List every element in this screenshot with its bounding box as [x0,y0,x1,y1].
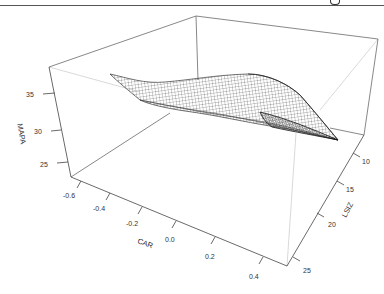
y-tick-15: 15 [346,186,354,193]
x-tick-neg0.6: -0.6 [63,192,75,199]
y-tick-10: 10 [362,158,370,165]
x-tick-0.2: 0.2 [205,253,215,260]
x-axis-line [71,177,287,266]
x-tick-neg0.2: -0.2 [126,220,138,227]
z-tick-35: 35 [26,91,34,98]
z-ticks [43,93,68,163]
z-axis-line [49,67,71,177]
box-back-edges [49,39,378,266]
x-ticks [77,181,263,264]
y-axis-label: LSIZ [340,200,356,219]
x-axis-label: CAR [136,236,155,250]
y-tick-20: 20 [328,221,336,228]
x-tick-0.4: 0.4 [249,273,259,280]
z-axis-label: MAPA [15,123,27,145]
x-tick-0.0: 0.0 [165,236,175,243]
perspective-plot: 35 30 25 MAPA -0.6 -0.4 -0.2 0.0 0.2 0.4… [0,0,384,294]
z-tick-30: 30 [34,128,42,135]
z-tick-25: 25 [40,161,48,168]
x-tick-neg0.4: -0.4 [93,205,105,212]
y-axis-line [287,135,364,266]
y-tick-25: 25 [303,267,311,274]
